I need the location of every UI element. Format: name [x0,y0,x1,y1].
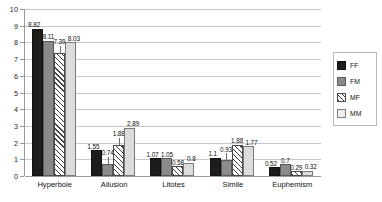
bar-slot: 0.93 [221,9,232,176]
bar[interactable]: 0.52 [269,167,280,176]
y-axis-tick-label: 9 [14,21,18,30]
plot-area: 109876543210 8.828.117.398.031.550.741.8… [24,9,321,176]
bar-group: 8.828.117.398.03 [25,9,84,176]
bar-slot: 1.77 [243,9,254,176]
bar-value-label: 1.1 [208,151,217,157]
y-axis-tick [20,76,24,77]
y-axis-tick [20,143,24,144]
y-axis-tick [20,59,24,60]
x-axis-label-hyperbole: Hyperbole [25,180,84,189]
legend-label-ff: FF [350,62,359,69]
y-axis-tick [20,42,24,43]
bar-value-label: 1.07 [147,152,159,158]
bar[interactable]: 8.11 [43,41,54,176]
bar[interactable]: 0.32 [302,171,313,176]
bar-slot: 0.8 [183,9,194,176]
y-axis-tick-label: 3 [14,121,18,130]
bar[interactable]: 0.7 [280,164,291,176]
bar-value-label: 0.32 [305,164,317,170]
bar[interactable]: 7.39 [54,53,65,176]
bar-value-label: 0.7 [281,158,290,164]
bar-slot: 0.58 [172,9,183,176]
bar[interactable]: 1.55 [91,150,102,176]
gridline [25,176,321,177]
bar-group: 1.550.741.882.89 [84,9,143,176]
bar-value-label: 0.8 [187,156,196,162]
bar-value-label: 0.52 [265,161,277,167]
legend-label-mm: MM [350,110,362,117]
y-axis-tick-label: 6 [14,71,18,80]
legend-item-fm: FM [337,73,373,89]
x-axis-label-euphemism: Euphemism [263,180,322,189]
y-axis-tick-label: 4 [14,105,18,114]
legend-label-fm: FM [350,78,360,85]
y-axis-tick [20,159,24,160]
y-axis-tick [20,93,24,94]
x-axis-label-litotes: Litotes [144,180,203,189]
x-axis-label-allusion: Allusion [84,180,143,189]
bar-value-label: 1.88 [231,138,243,144]
bar[interactable]: 1.88 [232,145,243,176]
y-axis-tick-label: 5 [14,88,18,97]
y-axis-tick-label: 1 [14,155,18,164]
bar-value-label: 7.39 [53,39,65,45]
bar-group: 1.10.931.881.77 [203,9,262,176]
bar[interactable]: 1.88 [113,145,124,176]
bar[interactable]: 1.1 [210,158,221,176]
bar-slot: 0.7 [280,9,291,176]
y-axis-tick [20,109,24,110]
bar[interactable]: 0.58 [172,166,183,176]
y-axis-tick [20,26,24,27]
bar-value-label: 0.58 [172,160,184,166]
bar[interactable]: 2.89 [124,128,135,176]
bar-slot: 1.07 [150,9,161,176]
x-axis-label-simile: Simile [203,180,262,189]
bar-slot: 2.89 [124,9,135,176]
bar[interactable]: 0.74 [102,164,113,176]
bar-value-label: 0.74 [102,150,114,156]
bar-value-label: 8.03 [68,36,80,42]
bar-value-label: 1.05 [161,152,173,158]
legend-item-mf: MF [337,89,373,105]
y-axis-tick [20,126,24,127]
bar[interactable]: 0.8 [183,163,194,176]
bar-chart: 109876543210 8.828.117.398.031.550.741.8… [0,0,382,202]
bar[interactable]: 1.07 [150,158,161,176]
bar[interactable]: 0.29 [291,171,302,176]
bar-slot: 7.39 [54,9,65,176]
legend-swatch-fm [337,77,346,86]
legend-item-mm: MM [337,105,373,121]
bar-value-label: 1.55 [87,144,99,150]
bar[interactable]: 1.05 [161,158,172,176]
bar-group: 1.071.050.580.8 [143,9,202,176]
bar-slot: 1.55 [91,9,102,176]
bar-slot: 1.88 [113,9,124,176]
y-axis-tick [20,9,24,10]
bar-value-label: 2.89 [127,121,139,127]
bar[interactable]: 0.93 [221,160,232,176]
y-axis-tick [20,176,24,177]
bar-slot: 1.05 [161,9,172,176]
bar[interactable]: 8.82 [32,29,43,176]
y-axis-tick-label: 10 [10,5,18,14]
legend-swatch-ff [337,61,346,70]
bar-value-label: 1.88 [113,131,125,137]
bar-slot: 0.32 [302,9,313,176]
bar-slot: 8.82 [32,9,43,176]
x-axis-category-labels: HyperboleAllusionLitotesSimileEuphemism [25,180,322,189]
bar-groups: 8.828.117.398.031.550.741.882.891.071.05… [25,9,321,176]
bar-value-label: 0.93 [220,147,232,153]
legend-item-ff: FF [337,57,373,73]
y-axis-tick-label: 7 [14,55,18,64]
y-axis-tick-label: 0 [14,172,18,181]
bar-value-label: 8.82 [28,22,40,28]
bar-slot: 8.11 [43,9,54,176]
bar[interactable]: 1.77 [243,146,254,176]
bar[interactable]: 8.03 [65,42,76,176]
bar-group: 0.520.70.290.32 [262,9,321,176]
y-axis-tick-label: 8 [14,38,18,47]
bar-slot: 0.74 [102,9,113,176]
bar-value-label: 0.29 [290,165,302,171]
y-axis-tick-label: 2 [14,138,18,147]
bar-value-label: 1.77 [245,140,257,146]
